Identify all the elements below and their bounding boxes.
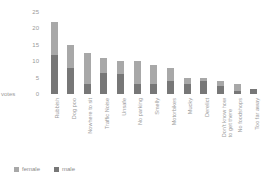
bar-column[interactable] bbox=[79, 12, 95, 94]
bar-segment-male bbox=[200, 81, 207, 94]
bar-stack bbox=[184, 78, 191, 94]
x-label-cell: Traffic Noise bbox=[96, 96, 112, 158]
legend-swatch-icon bbox=[54, 167, 59, 172]
x-axis-tick-label: Nowhere to sit bbox=[87, 98, 93, 134]
stacked-bar-chart: votes 0510152025 RubbishDog pooNowhere t… bbox=[0, 0, 270, 181]
x-label-cell: Motorbikes bbox=[163, 96, 179, 158]
y-axis: votes 0510152025 bbox=[0, 12, 46, 94]
y-axis-title: votes bbox=[1, 91, 15, 97]
legend-item[interactable]: male bbox=[54, 166, 75, 172]
legend-label: female bbox=[22, 166, 40, 172]
bar-column[interactable] bbox=[163, 12, 179, 94]
x-axis-tick-label: Unsafe bbox=[121, 98, 127, 116]
y-tick-label: 15 bbox=[32, 42, 39, 48]
bar-segment-male bbox=[217, 86, 224, 94]
bar-stack bbox=[250, 89, 257, 94]
bar-segment-female bbox=[167, 68, 174, 81]
x-label-cell: Don't know how to get there bbox=[213, 96, 229, 158]
x-axis-tick-label: Too far away bbox=[254, 98, 260, 130]
bar-segment-male bbox=[167, 81, 174, 94]
bar-segment-female bbox=[100, 58, 107, 73]
bar-segment-male bbox=[150, 84, 157, 94]
bar-segment-female bbox=[134, 61, 141, 84]
bar-segment-female bbox=[117, 61, 124, 74]
bar-segment-male bbox=[67, 68, 74, 94]
bar-stack bbox=[217, 81, 224, 94]
bar-segment-male bbox=[84, 84, 91, 94]
x-axis-tick-label: Traffic Noise bbox=[104, 98, 110, 129]
x-axis-tick-label: Rubbish bbox=[54, 98, 60, 119]
x-axis-tick-label: Motorbikes bbox=[171, 98, 177, 125]
bar-column[interactable] bbox=[246, 12, 262, 94]
x-label-cell: No parking bbox=[129, 96, 145, 158]
bar-column[interactable] bbox=[146, 12, 162, 94]
x-label-cell: Unsafe bbox=[113, 96, 129, 158]
bar-column[interactable] bbox=[46, 12, 62, 94]
bar-stack bbox=[117, 61, 124, 94]
y-tick-label: 5 bbox=[36, 75, 39, 81]
legend-swatch-icon bbox=[14, 167, 19, 172]
x-axis-tick-label: Dog poo bbox=[71, 98, 77, 119]
x-axis-labels: RubbishDog pooNowhere to sitTraffic Nois… bbox=[46, 96, 262, 158]
x-label-cell: Mucky bbox=[179, 96, 195, 158]
bar-stack bbox=[167, 68, 174, 94]
y-tick-label: 10 bbox=[32, 58, 39, 64]
bar-segment-male bbox=[184, 84, 191, 94]
x-label-cell: Smelly bbox=[146, 96, 162, 158]
legend-item[interactable]: female bbox=[14, 166, 40, 172]
bar-column[interactable] bbox=[196, 12, 212, 94]
y-tick-label: 25 bbox=[32, 9, 39, 15]
x-label-cell: Nowhere to sit bbox=[79, 96, 95, 158]
x-label-cell: Too far away bbox=[246, 96, 262, 158]
x-label-cell: Dog poo bbox=[63, 96, 79, 158]
x-axis-tick-label: No parking bbox=[137, 98, 143, 125]
x-axis-tick-label: No foodshops bbox=[237, 98, 243, 133]
x-label-cell: Rubbish bbox=[46, 96, 62, 158]
x-axis-tick-label: Derelict bbox=[204, 98, 210, 117]
bar-stack bbox=[150, 65, 157, 95]
bar-stack bbox=[84, 53, 91, 94]
bar-segment-female bbox=[51, 22, 58, 55]
x-axis-tick-label: Smelly bbox=[154, 98, 160, 115]
bar-stack bbox=[234, 84, 241, 94]
bar-stack bbox=[200, 78, 207, 94]
y-tick-label: 20 bbox=[32, 25, 39, 31]
bar-column[interactable] bbox=[213, 12, 229, 94]
y-tick-label: 0 bbox=[36, 91, 39, 97]
bar-stack bbox=[51, 22, 58, 94]
x-axis-tick-label: Mucky bbox=[187, 98, 193, 114]
bar-segment-male bbox=[100, 73, 107, 94]
bar-series-group bbox=[46, 12, 262, 94]
legend-label: male bbox=[62, 166, 75, 172]
bar-segment-male bbox=[250, 89, 257, 94]
x-label-cell: Derelict bbox=[196, 96, 212, 158]
bar-column[interactable] bbox=[129, 12, 145, 94]
bar-segment-female bbox=[150, 65, 157, 85]
bar-stack bbox=[134, 61, 141, 94]
bar-segment-male bbox=[134, 84, 141, 94]
plot-area bbox=[46, 12, 262, 94]
bar-segment-male bbox=[234, 91, 241, 94]
bar-segment-male bbox=[51, 55, 58, 94]
bar-column[interactable] bbox=[63, 12, 79, 94]
bar-segment-female bbox=[67, 45, 74, 68]
bar-stack bbox=[100, 58, 107, 94]
chart-legend: femalemale bbox=[14, 166, 75, 172]
x-label-cell: No foodshops bbox=[229, 96, 245, 158]
bar-column[interactable] bbox=[113, 12, 129, 94]
bar-column[interactable] bbox=[96, 12, 112, 94]
bar-column[interactable] bbox=[179, 12, 195, 94]
bar-column[interactable] bbox=[229, 12, 245, 94]
bar-stack bbox=[67, 45, 74, 94]
bar-segment-female bbox=[84, 53, 91, 84]
bar-segment-male bbox=[117, 74, 124, 94]
